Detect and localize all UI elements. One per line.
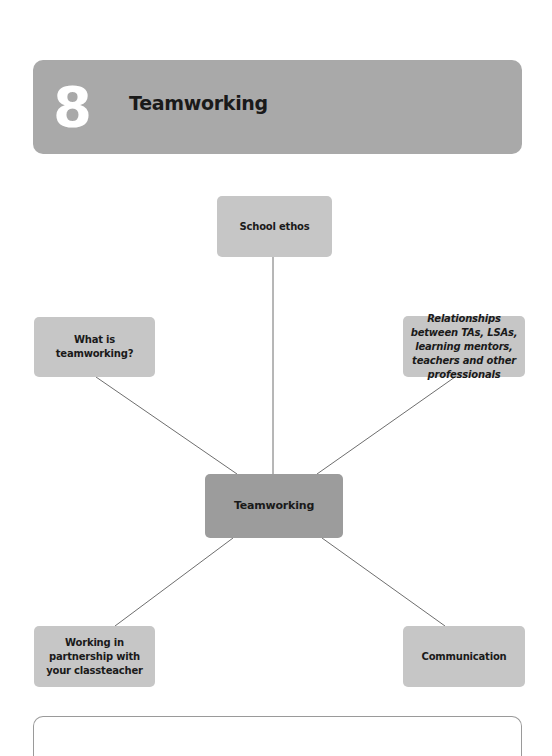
node-label: Working in partnership with your classte…: [38, 636, 151, 678]
node-center-teamworking: Teamworking: [205, 474, 343, 538]
node-what-is-teamworking: What is teamworking?: [34, 317, 155, 377]
node-label: Communication: [422, 650, 507, 664]
node-working-in-partnership: Working in partnership with your classte…: [34, 626, 155, 687]
node-label: What is teamworking?: [38, 333, 151, 361]
node-label: Teamworking: [234, 499, 314, 513]
node-label: Relationships between TAs, LSAs, learnin…: [407, 312, 521, 382]
connector-communication: [322, 538, 445, 626]
node-relationships: Relationships between TAs, LSAs, learnin…: [403, 316, 525, 377]
connector-working-in-partnership: [115, 538, 233, 626]
node-label: School ethos: [239, 220, 309, 234]
node-school-ethos: School ethos: [217, 196, 332, 257]
connector-what-is-teamworking: [96, 377, 237, 474]
node-communication: Communication: [403, 626, 525, 687]
connector-relationships: [317, 377, 455, 474]
bottom-content-frame: [33, 716, 522, 756]
